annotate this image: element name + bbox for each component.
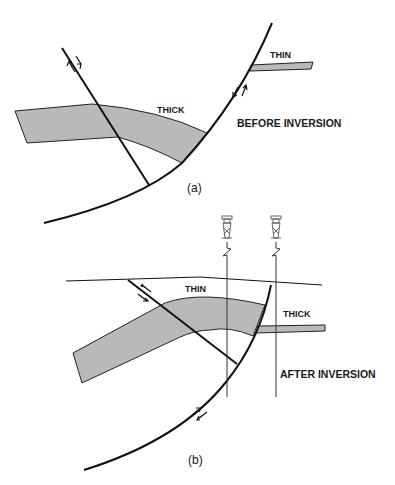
after-inversion-title: AFTER INVERSION	[280, 368, 376, 380]
thin-label-a: THIN	[270, 50, 291, 60]
thin-layer-a	[250, 62, 313, 71]
panel-b-caption: (b)	[188, 453, 203, 467]
thick-label-a: THICK	[157, 105, 185, 115]
slip-arrows-main-b	[191, 408, 207, 420]
before-inversion-title: BEFORE INVERSION	[237, 117, 341, 129]
inversion-diagram: THIN THICK BEFORE INVERSION (a)	[0, 0, 395, 485]
drilling-rig-icon	[222, 216, 232, 238]
panel-a-caption: (a)	[187, 181, 202, 195]
panel-a-before-inversion: THIN THICK BEFORE INVERSION (a)	[15, 23, 341, 223]
thin-label-b: THIN	[185, 284, 206, 294]
drilling-rig-icon	[271, 216, 281, 238]
thick-label-b: THICK	[283, 309, 311, 319]
panel-b-after-inversion: THIN THICK AFTER INVERSION (b)	[66, 216, 376, 470]
right-layer-b	[256, 325, 325, 333]
well-break-symbol	[272, 242, 280, 397]
